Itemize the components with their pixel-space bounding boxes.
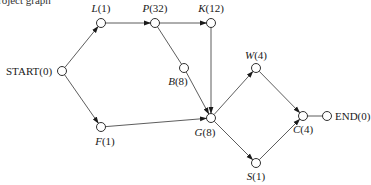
node-label-s: S(1) [247, 170, 266, 183]
node-p [151, 19, 160, 28]
node-c [299, 112, 308, 121]
node-weight: (1) [252, 170, 265, 183]
node-label-c: C(4) [293, 123, 314, 136]
node-weight: (1) [98, 2, 111, 15]
node-label-k: K(12) [197, 2, 224, 15]
labels-layer: START(0)L(1)P(32)K(12)B(8)F(1)G(8)W(4)S(… [6, 2, 371, 183]
node-weight: (1) [102, 135, 115, 148]
node-label-b: B(8) [168, 75, 188, 88]
node-w [252, 64, 261, 73]
node-label-g: G(8) [195, 126, 216, 139]
edge-start-to-f [65, 75, 99, 124]
node-label-l: L(1) [91, 2, 111, 15]
node-g [207, 114, 216, 123]
node-b [180, 64, 189, 73]
node-end [323, 112, 332, 121]
node-f [97, 123, 106, 132]
edge-start-to-l [65, 26, 98, 67]
node-weight: (8) [203, 126, 216, 139]
node-label-start: START(0) [6, 65, 52, 78]
node-weight: (32) [149, 2, 168, 15]
node-label-f: F(1) [94, 135, 115, 148]
edge-g-to-s [214, 121, 253, 160]
edge-w-to-c [259, 71, 300, 113]
node-name: L [91, 2, 98, 14]
node-name: G [195, 126, 203, 138]
node-k [207, 19, 216, 28]
node-label-p: P(32) [141, 2, 167, 15]
node-name: START [6, 65, 40, 77]
node-weight: (8) [175, 75, 188, 88]
node-weight: (12) [206, 2, 225, 15]
node-weight: (0) [358, 110, 371, 123]
edge-b-to-g [186, 72, 209, 114]
node-weight: (4) [300, 123, 313, 136]
edge-f-to-g [105, 118, 206, 126]
project-graph-diagram: roject graph START(0)L(1)P(32)K(12)B(8)F… [0, 0, 371, 185]
node-s [252, 159, 261, 168]
node-label-w: W(4) [245, 49, 267, 62]
edge-g-to-w [214, 71, 253, 114]
node-weight: (0) [39, 65, 52, 78]
node-label-end: END(0) [335, 110, 371, 123]
edge-p-to-b [157, 27, 181, 64]
node-start [58, 67, 67, 76]
node-name: END [335, 110, 358, 122]
node-l [97, 19, 106, 28]
caption-fragment: roject graph [0, 0, 51, 6]
node-weight: (4) [254, 49, 267, 62]
